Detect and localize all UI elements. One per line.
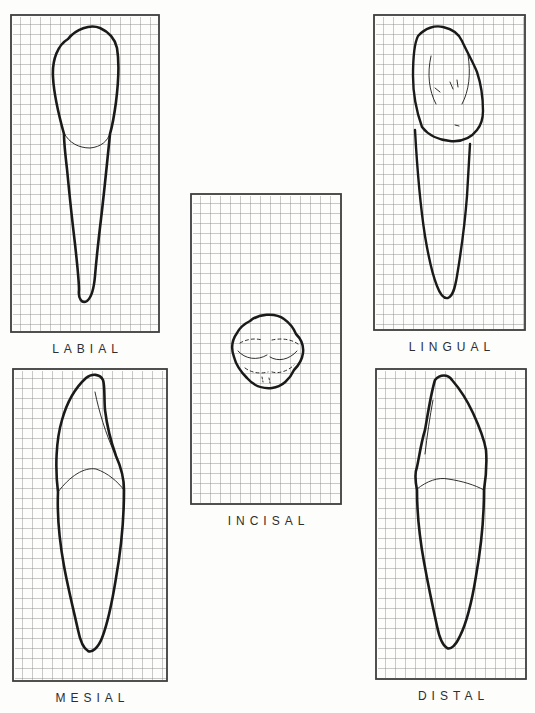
- distal-label: DISTAL: [375, 689, 527, 703]
- labial-label: LABIAL: [10, 342, 160, 356]
- panel-labial: LABIAL: [10, 14, 160, 356]
- lingual-grid-drawing: [373, 14, 526, 331]
- panel-distal: DISTAL: [375, 368, 527, 703]
- mesial-grid-drawing: [12, 368, 168, 682]
- panel-lingual: LINGUAL: [373, 14, 526, 354]
- mesial-label: MESIAL: [12, 691, 168, 705]
- incisal-label: INCISAL: [190, 514, 342, 528]
- panel-incisal: INCISAL: [190, 193, 342, 528]
- dental-anatomy-diagram-page: LABIAL LINGUAL INCISAL MESIAL DISTAL: [0, 0, 535, 713]
- panel-mesial: MESIAL: [12, 368, 168, 705]
- distal-grid-drawing: [375, 368, 527, 680]
- lingual-label: LINGUAL: [373, 340, 526, 354]
- labial-grid-drawing: [10, 14, 160, 333]
- incisal-grid-drawing: [190, 193, 342, 505]
